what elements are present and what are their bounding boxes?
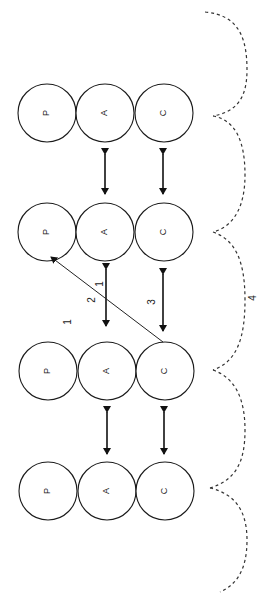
brace-bottom: [210, 488, 247, 592]
brace-top: [205, 12, 247, 116]
brace-group-1-2: [213, 116, 245, 232]
group-3: P A C: [19, 342, 194, 400]
edge-label-2: 2: [86, 297, 97, 303]
brace-group-2-3: [213, 232, 245, 370]
node-c-label: C: [158, 228, 168, 235]
dashed-braces: [205, 12, 247, 592]
group-4: P A C: [19, 462, 194, 520]
pac-diagram: P A C P A C P A C P A C: [0, 0, 277, 594]
node-a-label: A: [99, 110, 109, 116]
node-c-label: C: [159, 487, 169, 494]
group-2: P A C: [18, 203, 193, 261]
node-p-label: P: [42, 368, 52, 374]
node-a-label: A: [101, 488, 111, 494]
node-p-label: P: [42, 488, 52, 494]
group-1: P A C: [18, 84, 193, 142]
node-c-label: C: [159, 367, 169, 374]
node-c-label: C: [158, 109, 168, 116]
node-a-label: A: [99, 229, 109, 235]
node-p-label: P: [41, 229, 51, 235]
node-a-label: A: [101, 368, 111, 374]
edge-label-1a: 1: [62, 319, 73, 325]
edge-label-3: 3: [146, 299, 157, 305]
node-p-label: P: [41, 110, 51, 116]
edge-label-1b: 1: [94, 281, 105, 287]
brace-group-3-4: [210, 370, 245, 488]
edge-label-4: 4: [247, 295, 258, 301]
